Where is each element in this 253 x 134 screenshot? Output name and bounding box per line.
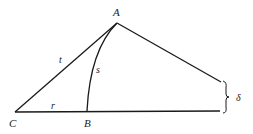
segment-A-right [117,23,221,82]
label-t: t [59,54,62,65]
label-C: C [9,117,17,129]
label-delta: δ [236,92,241,103]
segment-C-baseline [15,111,220,112]
segment-CA [15,23,117,112]
label-A: A [112,6,120,18]
label-B: B [84,117,91,129]
label-r: r [51,100,55,111]
brace-delta [223,81,229,113]
label-s: s [96,64,100,75]
geometry-diagram: A B C t s r δ [0,0,253,134]
